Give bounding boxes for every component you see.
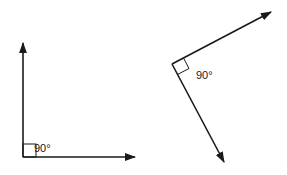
angle-label: 90° [196, 69, 213, 81]
upper-ray-arrow [172, 12, 271, 64]
figure-right-angle-right: 90° [172, 12, 271, 162]
figure-right-angle-left: 90° [23, 43, 135, 157]
angle-label: 90° [34, 142, 51, 154]
diagram-canvas: 90° 90° [0, 0, 287, 175]
